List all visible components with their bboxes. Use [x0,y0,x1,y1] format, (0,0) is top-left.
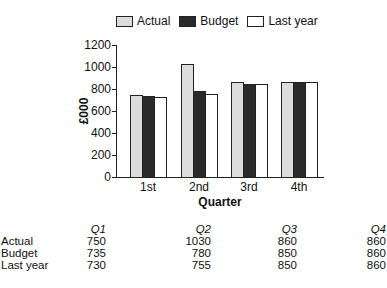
table-row: Budget735780850860 [0,247,387,259]
table-cell: 750 [87,235,106,247]
table-cell: 755 [192,259,211,271]
table-header-cell: Q4 [371,223,386,235]
y-tick-label: 0 [71,171,111,183]
table-cell: 735 [87,247,106,259]
table-header-cell: Q3 [282,223,297,235]
table-cell: 1030 [185,235,211,247]
x-tick-label: 2nd [179,180,219,194]
plot-area: 020040060080010001200 1st2nd3rd4th £000 … [0,0,387,210]
bar-last-year [205,94,218,178]
table-cell: 780 [192,247,211,259]
x-tick-label: 4th [279,180,319,194]
table-header-cell: Q1 [91,223,106,235]
table-row-label: Actual [1,235,33,247]
table-cell: 850 [278,259,297,271]
y-tick-mark [112,177,117,178]
table-cell: 860 [278,235,297,247]
y-tick-label: 200 [71,149,111,161]
table-cell: 850 [278,247,297,259]
bar-last-year [255,84,268,179]
table-cell: 860 [367,247,386,259]
x-tick-label: 3rd [229,180,269,194]
table-row-label: Last year [1,259,48,271]
bar-last-year [154,97,167,178]
table-row: Actual7501030860860 [0,235,387,247]
table-row-label: Budget [1,247,37,259]
y-tick-label: 1200 [71,39,111,51]
y-tick-mark [112,67,117,68]
y-tick-mark [112,89,117,90]
x-tick-label: 1st [128,180,168,194]
y-tick-label: 1000 [71,61,111,73]
y-tick-mark [112,111,117,112]
bar-last-year [305,82,318,178]
table-cell: 860 [367,259,386,271]
table-row: Last year730755850860 [0,259,387,271]
x-axis-title: Quarter [190,195,250,209]
table-cell: 730 [87,259,106,271]
table-header-row: Q1Q2Q3Q4 [0,223,387,235]
table-cell: 860 [367,235,386,247]
y-tick-mark [112,155,117,156]
y-axis-title: £000 [77,91,91,131]
y-tick-mark [112,133,117,134]
table-header-cell: Q2 [196,223,211,235]
y-tick-mark [112,45,117,46]
